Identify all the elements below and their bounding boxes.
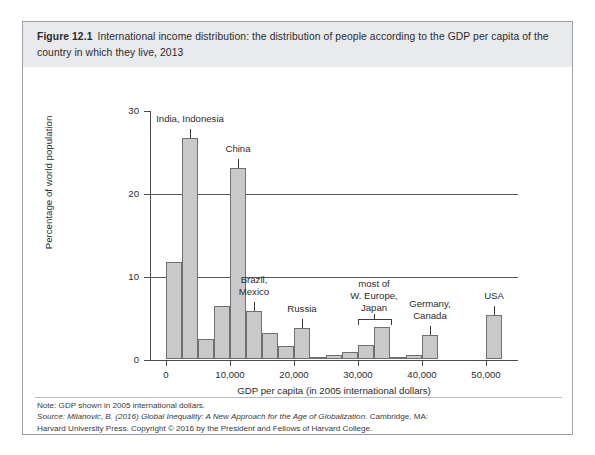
- chart-bar: [486, 315, 502, 360]
- chart-bar: [246, 311, 262, 359]
- chart-bar: [422, 335, 438, 359]
- footer-divider: [35, 397, 562, 398]
- annotation-leader: [494, 306, 495, 315]
- x-tick-label: 30,000: [323, 369, 393, 380]
- x-tick-label: 40,000: [387, 369, 457, 380]
- chart-bar: [358, 345, 374, 360]
- figure-footer: Note: GDP shown in 2005 international do…: [23, 400, 574, 435]
- y-tick: [144, 277, 150, 278]
- y-tick-label: 20: [113, 188, 139, 199]
- figure-container: Figure 12.1International income distribu…: [22, 21, 573, 435]
- chart-bar: [406, 355, 422, 360]
- bar-annotation-label: China: [193, 143, 283, 155]
- figure-caption: Figure 12.1International income distribu…: [37, 29, 558, 60]
- annotation-leader: [190, 129, 191, 138]
- bar-annotation-label: USA: [449, 290, 539, 302]
- x-tick: [230, 360, 231, 366]
- y-tick: [144, 194, 150, 195]
- chart-bar: [262, 333, 278, 360]
- source-suffix: Cambridge, MA:: [367, 412, 428, 421]
- annotation-leader: [254, 302, 255, 311]
- annotation-leader: [302, 319, 303, 328]
- x-tick-label: 10,000: [195, 369, 265, 380]
- footer-source-line2: Harvard University Press. Copyright © 20…: [37, 423, 560, 434]
- x-axis-title: GDP per capita (in 2005 international do…: [150, 385, 518, 396]
- y-tick-label: 10: [113, 271, 139, 282]
- chart-plot-area: 0102030 010,00020,00030,00040,00050,000 …: [23, 67, 574, 397]
- chart-bar: [310, 357, 326, 360]
- chart-bar: [166, 262, 182, 360]
- bar-annotation-label: Brazil, Mexico: [209, 274, 299, 298]
- chart-bar: [230, 168, 246, 359]
- x-tick-label: 20,000: [259, 369, 329, 380]
- chart-bar: [390, 357, 406, 359]
- annotation-leader: [238, 159, 239, 168]
- figure-number: Figure 12.1: [37, 31, 92, 42]
- figure-caption-band: Figure 12.1International income distribu…: [23, 22, 572, 67]
- footer-source-line1: Source: Milanovic, B. (2016) Global Ineq…: [37, 411, 560, 422]
- x-tick: [294, 360, 295, 366]
- x-tick: [358, 360, 359, 366]
- y-tick: [144, 360, 150, 361]
- y-axis-title: Percentage of world population: [43, 98, 54, 268]
- bar-annotation-label: Germany, Canada: [385, 298, 475, 322]
- chart-bar: [374, 327, 390, 359]
- figure-title: International income distribution: the d…: [37, 31, 549, 58]
- chart-bar: [278, 346, 294, 359]
- chart-bar: [342, 352, 358, 359]
- chart-bar: [198, 339, 214, 360]
- chart-bar: [326, 355, 342, 360]
- chart-bar: [182, 138, 198, 360]
- bar-annotation-label: India, Indonesia: [145, 113, 235, 125]
- gridline: [150, 194, 518, 195]
- chart-bar: [294, 328, 310, 359]
- x-tick-label: 0: [131, 369, 201, 380]
- chart-bar: [214, 306, 230, 360]
- source-prefix: Source: Milanovic, B. (2016): [37, 412, 141, 421]
- annotation-leader: [430, 326, 431, 335]
- footer-note: Note: GDP shown in 2005 international do…: [37, 400, 560, 411]
- x-axis-line: [150, 360, 518, 361]
- source-title: Global Inequality: A New Approach for th…: [141, 412, 367, 421]
- x-tick: [166, 360, 167, 366]
- x-tick: [486, 360, 487, 366]
- x-tick-label: 50,000: [451, 369, 521, 380]
- y-tick-label: 30: [113, 105, 139, 116]
- y-axis-line: [150, 111, 151, 360]
- x-tick: [422, 360, 423, 366]
- y-tick-label: 0: [113, 354, 139, 365]
- annotation-leader: [374, 314, 375, 320]
